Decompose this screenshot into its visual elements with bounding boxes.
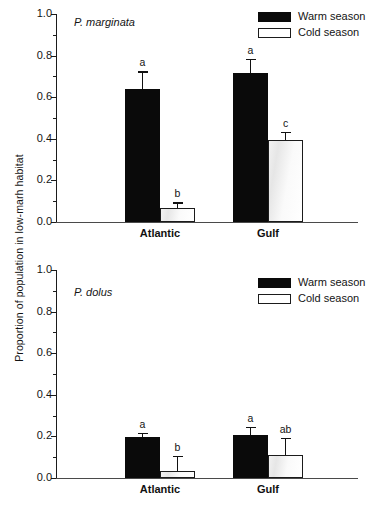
- plot-area-top: 0.00.20.40.60.81.0abAtlanticacGulf: [56, 14, 358, 222]
- bar-atlantic-cold[interactable]: [160, 471, 195, 478]
- significance-letter: a: [140, 418, 146, 430]
- y-axis-line: [56, 270, 57, 478]
- y-axis-tick-label: 0.8: [18, 49, 52, 61]
- y-axis-tick-minor: [53, 201, 56, 202]
- bar-gulf-cold[interactable]: [268, 455, 303, 478]
- y-axis-tick-label: 0.0: [18, 215, 52, 227]
- x-axis-label-atlantic: Atlantic: [140, 227, 180, 239]
- x-axis-label-gulf: Gulf: [257, 227, 279, 239]
- y-axis-tick-label: 0.2: [18, 429, 52, 441]
- error-bar: [250, 59, 251, 74]
- error-bar-cap: [138, 433, 148, 434]
- error-bar: [177, 456, 178, 471]
- error-bar-cap: [246, 427, 256, 428]
- plot-area-bottom: 0.00.20.40.60.81.0abAtlanticaabGulf: [56, 270, 358, 478]
- bar-gulf-warm[interactable]: [233, 73, 268, 222]
- y-axis-tick-label: 0.0: [18, 471, 52, 483]
- figure-panel-container: Proportion of population in low-marh hab…: [0, 0, 377, 512]
- error-bar-cap: [173, 202, 183, 203]
- y-axis-tick-minor: [53, 160, 56, 161]
- y-axis-tick-minor: [53, 76, 56, 77]
- significance-letter: c: [283, 117, 288, 129]
- y-axis-tick-label: 0.6: [18, 90, 52, 102]
- error-bar-cap: [138, 71, 148, 72]
- y-axis-tick-minor: [53, 332, 56, 333]
- bar-atlantic-warm[interactable]: [125, 437, 160, 478]
- significance-letter: a: [140, 56, 146, 68]
- chart-panel-p-marginata: P. marginata Warm season Cold season 0.0…: [0, 0, 377, 256]
- error-bar-cap: [246, 59, 256, 60]
- y-axis-tick-minor: [53, 374, 56, 375]
- y-axis-tick-label: 1.0: [18, 263, 52, 275]
- bar-atlantic-cold[interactable]: [160, 208, 195, 222]
- significance-letter: ab: [280, 423, 292, 435]
- significance-letter: b: [175, 187, 181, 199]
- y-axis-tick-minor: [53, 416, 56, 417]
- bar-atlantic-warm[interactable]: [125, 89, 160, 222]
- y-axis-tick-label: 1.0: [18, 7, 52, 19]
- x-axis-line: [56, 478, 358, 479]
- y-axis-tick-label: 0.2: [18, 173, 52, 185]
- x-axis-label-gulf: Gulf: [257, 483, 279, 495]
- x-axis-label-atlantic: Atlantic: [140, 483, 180, 495]
- error-bar-cap: [281, 132, 291, 133]
- bar-gulf-warm[interactable]: [233, 435, 268, 478]
- significance-letter: b: [175, 441, 181, 453]
- y-axis-tick-label: 0.8: [18, 305, 52, 317]
- error-bar-cap: [281, 438, 291, 439]
- y-axis-tick-label: 0.4: [18, 132, 52, 144]
- y-axis-line: [56, 14, 57, 222]
- x-axis-line: [56, 222, 358, 223]
- y-axis-tick-minor: [53, 35, 56, 36]
- chart-panel-p-dolus: P. dolus Warm season Cold season 0.00.20…: [0, 256, 377, 512]
- y-axis-tick-minor: [53, 118, 56, 119]
- y-axis-tick-label: 0.6: [18, 346, 52, 358]
- y-axis-tick-minor: [53, 457, 56, 458]
- y-axis-tick-minor: [53, 291, 56, 292]
- bar-gulf-cold[interactable]: [268, 140, 303, 222]
- error-bar: [142, 71, 143, 89]
- error-bar-cap: [173, 456, 183, 457]
- error-bar: [285, 438, 286, 455]
- significance-letter: a: [248, 412, 254, 424]
- significance-letter: a: [248, 44, 254, 56]
- y-axis-tick-label: 0.4: [18, 388, 52, 400]
